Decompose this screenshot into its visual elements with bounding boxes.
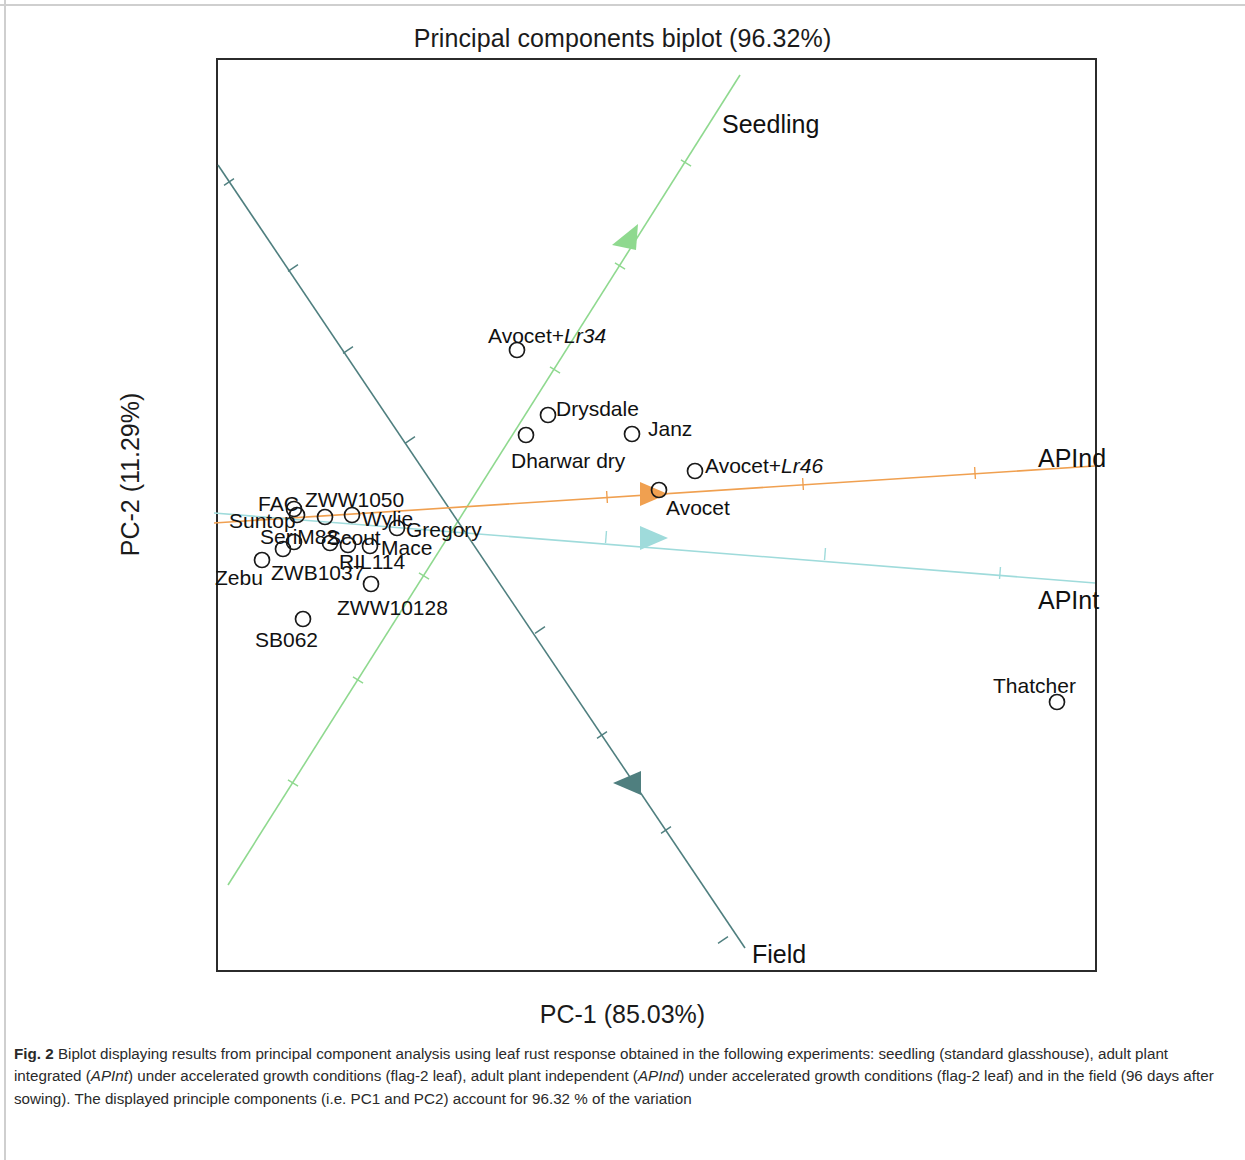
data-point-label: Janz [648,418,692,439]
data-point-label: Zebu [215,567,263,588]
caption-apind-term: APInd [638,1067,679,1084]
plot-frame [216,58,1097,972]
data-point-label: RIL114 [339,551,405,572]
caption-apint-term: APInt [91,1067,128,1084]
vector-label-apint: APInt [1038,588,1099,613]
vector-label-field: Field [752,942,806,967]
caption-number: Fig. 2 [14,1045,54,1062]
caption-text-2: ) under accelerated growth conditions (f… [128,1067,638,1084]
figure-page: Principal components biplot (96.32%) Avo… [0,0,1245,1160]
data-point-label: Dharwar dry [511,450,625,471]
data-point-label: ZWW10128 [337,597,448,618]
vector-label-apind: APInd [1038,446,1106,471]
figure-caption: Fig. 2 Biplot displaying results from pr… [14,1043,1229,1110]
data-point-label: Avocet+Lr46 [705,455,823,476]
data-point-label: Scout [327,527,381,548]
data-point-label: Avocet+Lr34 [488,325,606,346]
biplot-figure: Principal components biplot (96.32%) Avo… [0,0,1245,1035]
chart-title: Principal components biplot (96.32%) [0,24,1245,53]
y-axis-label: PC-2 (11.29%) [116,325,145,625]
data-point-label: Thatcher [993,675,1076,696]
data-point-label: SB062 [255,629,318,650]
x-axis-label: PC-1 (85.03%) [0,1000,1245,1029]
vector-label-seedling: Seedling [722,112,819,137]
data-point-label: Drysdale [556,398,639,419]
data-point-label: Avocet [666,497,730,518]
